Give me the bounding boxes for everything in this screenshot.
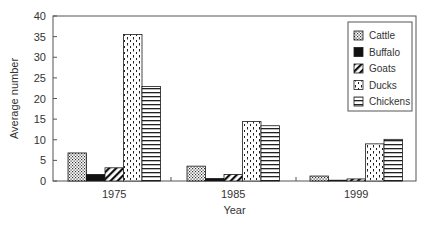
bar-group-1999 xyxy=(310,139,403,181)
bar-cattle-1975 xyxy=(68,153,87,181)
x-tick-label: 1999 xyxy=(344,188,368,200)
legend-swatch-chickens xyxy=(354,97,363,106)
y-tick-label: 35 xyxy=(34,31,46,43)
legend-swatch-goats xyxy=(354,64,363,73)
bar-ducks-1985 xyxy=(243,122,262,181)
bar-chickens-1999 xyxy=(384,139,403,181)
y-tick-label: 25 xyxy=(34,72,46,84)
legend-label: Ducks xyxy=(369,80,397,91)
bar-goats-1985 xyxy=(224,174,243,181)
bar-group-1985 xyxy=(187,122,280,181)
y-tick-label: 5 xyxy=(40,154,46,166)
legend-item-chickens: Chickens xyxy=(354,96,410,107)
y-tick-label: 10 xyxy=(34,134,46,146)
y-axis-label: Average number xyxy=(8,58,20,139)
legend-item-buffalo: Buffalo xyxy=(354,47,400,58)
bar-chickens-1985 xyxy=(261,126,280,181)
y-tick-label: 30 xyxy=(34,51,46,63)
x-axis-title: Year xyxy=(223,204,246,216)
bar-goats-1999 xyxy=(347,179,366,181)
bar-goats-1975 xyxy=(105,168,124,181)
bar-buffalo-1985 xyxy=(206,179,225,181)
y-tick-label: 15 xyxy=(34,113,46,125)
bar-buffalo-1975 xyxy=(87,174,106,181)
x-tick-label: 1975 xyxy=(102,188,126,200)
legend: CattleBuffaloGoatsDucksChickens xyxy=(348,22,412,111)
y-axis-ticks: 0510152025303540 xyxy=(34,10,57,187)
y-tick-label: 20 xyxy=(34,93,46,105)
legend-swatch-cattle xyxy=(354,31,363,40)
legend-label: Cattle xyxy=(369,30,396,41)
legend-label: Buffalo xyxy=(369,47,400,58)
bar-ducks-1975 xyxy=(124,35,143,181)
legend-label: Goats xyxy=(369,63,396,74)
legend-item-goats: Goats xyxy=(354,63,396,74)
bar-chickens-1975 xyxy=(142,87,161,181)
legend-item-ducks: Ducks xyxy=(354,80,397,91)
bar-group-1975 xyxy=(68,35,161,181)
legend-swatch-buffalo xyxy=(354,48,363,57)
legend-label: Chickens xyxy=(369,96,410,107)
y-axis-title: Average number xyxy=(8,58,20,139)
bar-ducks-1999 xyxy=(366,144,385,181)
y-tick-label: 40 xyxy=(34,10,46,22)
x-axis-label: Year xyxy=(223,204,246,216)
legend-item-cattle: Cattle xyxy=(354,30,396,41)
legend-swatch-ducks xyxy=(354,81,363,90)
bar-cattle-1985 xyxy=(187,166,206,181)
grouped-bar-chart: Average number 0510152025303540 19751985… xyxy=(0,0,433,225)
bar-cattle-1999 xyxy=(310,176,329,181)
x-tick-label: 1985 xyxy=(221,188,245,200)
bar-buffalo-1999 xyxy=(329,180,348,181)
y-tick-label: 0 xyxy=(40,175,46,187)
